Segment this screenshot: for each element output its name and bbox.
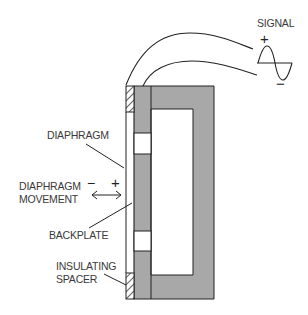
- diaphragm-label: DIAPHRAGM: [47, 129, 109, 141]
- backplate-hole-lower: [134, 231, 151, 251]
- signal-plus-icon: +: [260, 30, 269, 47]
- insulating-spacer-top: [126, 86, 134, 112]
- diaphragm-leader: [86, 144, 124, 168]
- signal-minus-icon: −: [276, 75, 285, 92]
- signal-wire-positive: [126, 33, 253, 85]
- signal-label: SIGNAL: [257, 17, 295, 29]
- backplate-label: BACKPLATE: [49, 229, 108, 241]
- spacer-leader: [104, 274, 126, 285]
- housing-frame: [134, 86, 214, 299]
- signal-waveform-icon: [257, 46, 292, 80]
- movement-label-line1: DIAPHRAGM: [19, 180, 81, 192]
- movement-minus-icon: −: [87, 175, 95, 191]
- microphone-diagram: SIGNAL + − DIAPHRAGM DIAPHRAGM MOVEMENT …: [0, 0, 308, 315]
- signal-wire-negative: [143, 61, 257, 86]
- spacer-label-line2: SPACER: [56, 273, 98, 285]
- backplate-hole-upper: [134, 133, 151, 154]
- spacer-label-line1: INSULATING: [56, 260, 116, 272]
- insulating-spacer-bottom: [126, 273, 134, 299]
- movement-label-line2: MOVEMENT: [19, 193, 79, 205]
- double-arrow-icon: [92, 191, 121, 199]
- movement-plus-icon: +: [111, 174, 120, 191]
